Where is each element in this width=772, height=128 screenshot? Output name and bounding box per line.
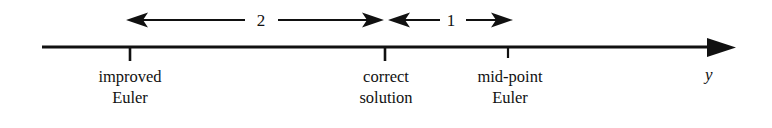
tick-label-improved-euler: improved Euler xyxy=(98,66,161,108)
number-line-figure: 2 1 improved Euler correct solution mid-… xyxy=(0,0,772,128)
tick-label-correct-solution: correct solution xyxy=(359,66,412,108)
tick-label-line-1: correct xyxy=(359,66,412,87)
tick-label-line-1: improved xyxy=(98,66,161,87)
tick-label-line-2: Euler xyxy=(98,87,161,108)
y-axis-group xyxy=(42,38,736,57)
tick-label-line-1: mid-point xyxy=(477,66,542,87)
tick-label-line-2: solution xyxy=(359,87,412,108)
y-axis-arrowhead-icon xyxy=(707,38,736,57)
figure-canvas xyxy=(0,0,772,128)
y-axis-label: y xyxy=(705,66,713,83)
span-one-value: 1 xyxy=(447,12,456,29)
tick-label-line-2: Euler xyxy=(477,87,542,108)
span-two-group xyxy=(126,13,384,28)
tick-label-mid-point-euler: mid-point Euler xyxy=(477,66,542,108)
span-two-value: 2 xyxy=(257,12,266,29)
